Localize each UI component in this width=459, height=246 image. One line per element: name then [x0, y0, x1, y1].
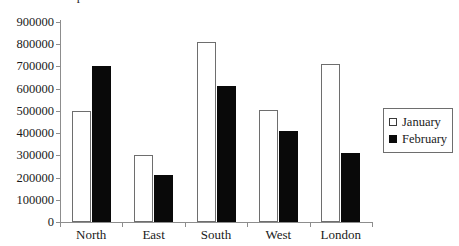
filled-square-icon	[389, 135, 397, 143]
bar-west-january	[259, 110, 278, 222]
y-axis-tick-label: 100000	[2, 194, 54, 206]
hollow-square-icon	[389, 118, 397, 126]
bar-west-february	[279, 131, 298, 222]
page-title-clipped: p	[0, 0, 160, 5]
y-axis-tick-label: 800000	[2, 38, 54, 50]
bar-south-february	[217, 86, 236, 222]
legend-item-label: January	[402, 115, 441, 129]
bar-east-january	[134, 155, 153, 222]
y-axis-labels: 9000008000007000006000005000004000003000…	[0, 22, 54, 222]
y-axis-tick-label: 0	[2, 216, 54, 228]
chart-screenshot: p 90000080000070000060000050000040000030…	[0, 0, 459, 246]
bar-north-january	[72, 111, 91, 222]
bar-london-february	[341, 153, 360, 222]
chart-legend: JanuaryFebruary	[383, 108, 453, 153]
y-axis-tick-label: 300000	[2, 149, 54, 161]
bar-north-february	[92, 66, 111, 222]
bar-east-february	[154, 175, 173, 222]
x-axis-category-label: South	[185, 226, 247, 243]
y-axis-tick-label: 700000	[2, 60, 54, 72]
y-axis-tick-label: 400000	[2, 127, 54, 139]
legend-item-january[interactable]: January	[389, 113, 448, 130]
y-axis-tick-label: 200000	[2, 172, 54, 184]
x-axis-category-label: East	[122, 226, 184, 243]
x-axis-category-label: West	[247, 226, 309, 243]
x-axis-category-label: London	[310, 226, 372, 243]
y-axis-tick-label: 500000	[2, 105, 54, 117]
bar-south-january	[197, 42, 216, 222]
legend-item-label: February	[402, 132, 447, 146]
x-axis-tick	[372, 222, 373, 227]
y-axis-tick-label: 900000	[2, 16, 54, 28]
bar-london-january	[321, 64, 340, 222]
legend-item-february[interactable]: February	[389, 130, 448, 147]
x-axis-category-label: North	[60, 226, 122, 243]
y-axis-tick-label: 600000	[2, 83, 54, 95]
plot-area	[60, 22, 372, 222]
